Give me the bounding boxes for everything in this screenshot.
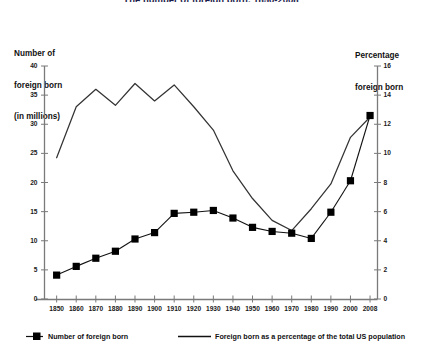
tick-label: 2008: [356, 305, 384, 312]
tick-label: 15: [0, 208, 38, 215]
tick-label: 10: [0, 237, 38, 244]
data-point-marker: [190, 209, 197, 216]
data-point-marker: [347, 177, 354, 184]
legend-label-percentage: Foreign born as a percentage of the tota…: [215, 332, 405, 341]
data-point-marker: [53, 272, 60, 279]
count-series-markers: [53, 112, 374, 279]
tick-label: 10: [384, 149, 391, 156]
data-point-marker: [327, 209, 334, 216]
data-point-marker: [151, 229, 158, 236]
data-point-marker: [92, 255, 99, 262]
tick-label: 6: [384, 208, 388, 215]
tick-label: 4: [384, 237, 388, 244]
data-point-marker: [210, 207, 217, 214]
count-series-connectors: [57, 116, 370, 276]
data-point-marker: [288, 230, 295, 237]
tick-label: 20: [0, 179, 38, 186]
tick-label: 2: [384, 266, 388, 273]
tick-label: 12: [384, 120, 391, 127]
legend-square-icon: [33, 333, 41, 341]
tick-label: 0: [0, 295, 38, 302]
data-point-marker: [171, 210, 178, 217]
tick-label: 30: [0, 120, 38, 127]
tick-label: 40: [0, 62, 38, 69]
tick-label: 35: [0, 91, 38, 98]
data-point-marker: [73, 263, 80, 270]
data-point-marker: [131, 235, 138, 242]
tick-label: 8: [384, 179, 388, 186]
data-point-marker: [308, 235, 315, 242]
data-point-marker: [249, 224, 256, 231]
data-point-marker: [112, 248, 119, 255]
data-point-marker: [229, 214, 236, 221]
plot-area: [0, 0, 422, 355]
data-point-marker: [269, 228, 276, 235]
tick-label: 0: [384, 295, 388, 302]
legend-label-count: Number of foreign born: [48, 332, 128, 341]
chart-container: The number of foreign born, 1850-2008 Nu…: [0, 0, 422, 355]
tick-label: 14: [384, 91, 391, 98]
tick-label: 25: [0, 149, 38, 156]
tick-label: 16: [384, 62, 391, 69]
tick-label: 5: [0, 266, 38, 273]
data-point-marker: [366, 112, 373, 119]
